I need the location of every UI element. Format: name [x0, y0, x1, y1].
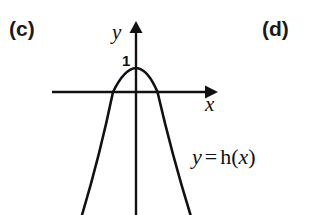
equation-open-paren: (	[231, 144, 238, 169]
x-axis-label: x	[205, 94, 214, 115]
equation-function-h: h	[220, 144, 231, 169]
curve-equation-label: y=h(x)	[192, 146, 256, 168]
y-axis-arrowhead-icon	[130, 21, 143, 33]
y-axis-label: y	[112, 22, 121, 43]
part-label-c: (c)	[9, 18, 35, 39]
equation-variable-x: x	[239, 144, 249, 169]
y-axis-tick-label-1: 1	[122, 53, 130, 68]
figure-panel: (c) (d) y x 1 y=h(x)	[0, 0, 313, 215]
equation-close-paren: )	[248, 144, 255, 169]
part-label-d: (d)	[262, 18, 289, 39]
equation-y: y	[192, 144, 202, 169]
equation-equals: =	[202, 144, 220, 169]
